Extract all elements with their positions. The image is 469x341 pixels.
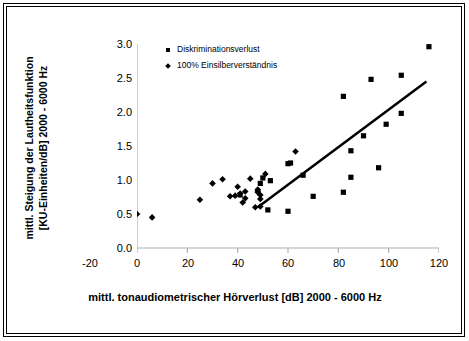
y-tick-label-2.0: 2.0 xyxy=(104,106,132,118)
x-tick-label-60: 60 xyxy=(271,257,305,269)
data-point xyxy=(368,77,373,82)
data-point xyxy=(348,148,353,153)
x-tick-label-80: 80 xyxy=(322,257,356,269)
x-tick-label-40: 40 xyxy=(221,257,255,269)
y-tick-label-2.5: 2.5 xyxy=(104,72,132,84)
scatter-plot-svg xyxy=(137,44,439,254)
data-point xyxy=(361,133,366,138)
x-tick-label--20: -20 xyxy=(73,257,107,269)
x-axis-title: mittl. tonaudiometrischer Hörverlust [dB… xyxy=(30,291,440,303)
data-point xyxy=(234,184,241,191)
series-diskriminationsverlust xyxy=(238,44,432,214)
data-point xyxy=(399,111,404,116)
y-tick-label-1.0: 1.0 xyxy=(104,174,132,186)
x-tick-label-20: 20 xyxy=(171,257,205,269)
figure-container: mittl. Steigung der Lautheitsfunktion [K… xyxy=(0,0,469,341)
data-point xyxy=(285,209,290,214)
data-point xyxy=(399,73,404,78)
data-point xyxy=(227,193,234,200)
data-point xyxy=(348,175,353,180)
data-point xyxy=(258,181,263,186)
data-point xyxy=(219,176,226,183)
y-tick-label-1.5: 1.5 xyxy=(104,140,132,152)
data-point xyxy=(268,178,273,183)
series-einsilberverstaendnis xyxy=(137,148,299,221)
y-tick-label-3.0: 3.0 xyxy=(104,38,132,50)
data-point xyxy=(292,148,299,155)
data-point xyxy=(341,94,346,99)
plot-area xyxy=(137,44,439,248)
data-point xyxy=(376,165,381,170)
data-point xyxy=(426,44,431,49)
y-tick-label-0.5: 0.5 xyxy=(104,208,132,220)
data-point xyxy=(149,214,156,221)
data-point xyxy=(197,196,204,203)
data-point xyxy=(137,211,140,218)
data-point xyxy=(341,190,346,195)
data-point xyxy=(257,196,264,203)
x-tick-label-0: 0 xyxy=(120,257,154,269)
regression-trendline xyxy=(258,81,427,207)
data-point xyxy=(265,207,270,212)
x-tick-label-120: 120 xyxy=(422,257,456,269)
data-point xyxy=(209,180,216,187)
data-point xyxy=(384,122,389,127)
y-tick-label-0.0: 0.0 xyxy=(104,242,132,254)
data-point xyxy=(252,204,259,211)
data-point xyxy=(247,175,254,182)
data-point xyxy=(288,160,293,165)
x-tick-label-100: 100 xyxy=(372,257,406,269)
data-point xyxy=(311,194,316,199)
